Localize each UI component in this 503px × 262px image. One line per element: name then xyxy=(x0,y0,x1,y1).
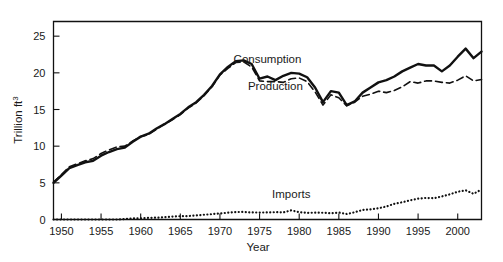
x-tick-label: 1985 xyxy=(327,225,351,237)
series-label-production: Production xyxy=(248,80,303,92)
x-tick-label: 1955 xyxy=(89,225,113,237)
y-axis-title: Trillion ft3 xyxy=(11,96,24,144)
x-axis-tick-labels: 1950195519601965197019751980198519901995… xyxy=(49,225,470,237)
x-tick-label: 1970 xyxy=(208,225,232,237)
series-label-imports: Imports xyxy=(272,188,311,200)
x-tick-label: 1960 xyxy=(128,225,152,237)
x-tick-label: 1995 xyxy=(406,225,430,237)
y-tick-label: 15 xyxy=(33,104,45,116)
y-tick-label: 5 xyxy=(39,177,45,189)
series-label-consumption: Consumption xyxy=(234,53,302,65)
y-axis-title-base: Trillion ft xyxy=(12,100,24,144)
x-axis-title: Year xyxy=(246,241,269,253)
chart-canvas: 0510152025 19501955196019651970197519801… xyxy=(0,0,503,262)
x-tick-label: 1975 xyxy=(247,225,271,237)
x-tick-label: 1950 xyxy=(49,225,73,237)
x-tick-label: 1980 xyxy=(287,225,311,237)
x-tick-label: 1990 xyxy=(366,225,390,237)
y-tick-label: 20 xyxy=(33,67,45,79)
y-axis-title-superscript: 3 xyxy=(11,96,20,101)
x-tick-label: 1965 xyxy=(168,225,192,237)
chart-figure: 0510152025 19501955196019651970197519801… xyxy=(0,0,503,262)
y-tick-label: 0 xyxy=(39,214,45,226)
y-axis-title-group: Trillion ft3 xyxy=(11,96,24,144)
y-tick-label: 10 xyxy=(33,140,45,152)
chart-background xyxy=(0,0,503,262)
y-tick-label: 25 xyxy=(33,30,45,42)
x-tick-label: 2000 xyxy=(445,225,469,237)
